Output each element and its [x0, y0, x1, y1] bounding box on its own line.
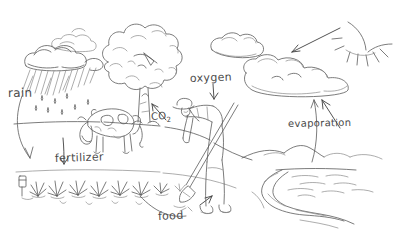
oxygen-arrow [210, 84, 218, 99]
sun [332, 22, 392, 66]
label-evaporation: evaporation [288, 117, 352, 129]
label-fertilizer: fertilizer [55, 150, 104, 165]
rain-streaks [22, 68, 96, 95]
ground-line [14, 122, 252, 188]
sunlight-arrow [292, 28, 340, 52]
co2-text: CO [151, 110, 167, 122]
hills [242, 146, 382, 159]
label-food: food [158, 209, 184, 223]
cow [78, 109, 143, 154]
rain-arrow [17, 96, 33, 158]
co2-subscript: 2 [166, 116, 171, 124]
raindrops [35, 94, 89, 115]
farmer [173, 98, 238, 213]
sky-cloud [211, 33, 349, 97]
label-rain: rain [8, 86, 33, 100]
rain-cloud [22, 46, 103, 115]
label-oxygen: oxygen [190, 71, 232, 85]
label-co2: CO2 [151, 110, 172, 125]
fence-post [19, 176, 26, 196]
illustration-canvas: rain fertilizer food CO2 oxygen evaporat… [0, 0, 394, 242]
river [252, 170, 354, 228]
crop-row [22, 181, 185, 204]
lake [276, 169, 373, 198]
